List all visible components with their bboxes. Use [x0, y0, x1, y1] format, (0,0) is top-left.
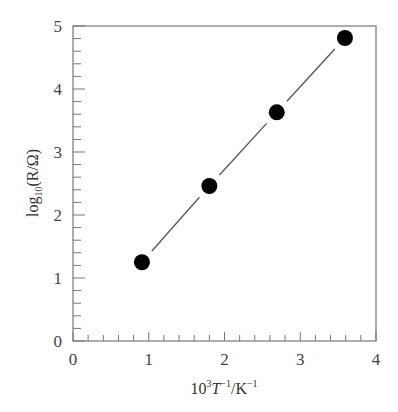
plot-border [73, 26, 376, 341]
x-tick-label: 3 [296, 350, 305, 369]
fit-line [152, 49, 335, 251]
data-point [134, 254, 150, 270]
data-point [337, 30, 353, 46]
fit-line-segment [152, 197, 200, 251]
x-tick-label: 1 [145, 350, 154, 369]
fit-line-segment [287, 49, 335, 101]
fit-line-segment [219, 123, 266, 175]
y-tick-label: 5 [54, 17, 63, 36]
axis-ticks [73, 26, 376, 341]
x-tick-label: 4 [372, 350, 381, 369]
chart: 01234012345 103T−1/K−1 log10(R/Ω) [0, 0, 398, 412]
data-point [201, 178, 217, 194]
x-tick-label: 2 [220, 350, 229, 369]
y-tick-label: 2 [54, 206, 63, 225]
x-tick-label: 0 [69, 350, 78, 369]
tick-labels: 01234012345 [54, 17, 381, 369]
data-point [269, 104, 285, 120]
y-tick-label: 4 [54, 80, 63, 99]
y-axis-title: log10(R/Ω) [24, 149, 44, 217]
x-axis-title: 103T−1/K−1 [190, 378, 257, 397]
plot-frame [73, 26, 376, 341]
y-tick-label: 3 [54, 143, 63, 162]
y-tick-label: 1 [54, 269, 63, 288]
y-tick-label: 0 [54, 332, 63, 351]
